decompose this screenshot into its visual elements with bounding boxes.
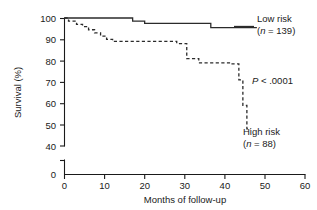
kaplan-meier-figure: 100 90 80 70 60 50 40 0 Survival (%) 0 1… [0,0,317,210]
y-tick-label-70: 70 [45,77,56,88]
x-tick-label-60: 60 [300,180,311,191]
y-tick-label-50: 50 [45,120,56,131]
y-tick-label-0: 0 [51,169,56,180]
y-axis: 100 90 80 70 60 50 40 0 Survival (%) [12,13,65,180]
x-axis-title: Months of follow-up [144,194,226,205]
p-value-annotation: P < .0001 [252,75,293,86]
p-value-text: P < .0001 [252,75,293,86]
survival-curve-high-risk [65,18,251,129]
x-tick-label-0: 0 [62,180,67,191]
y-tick-label-100: 100 [40,13,56,24]
y-tick-label-80: 80 [45,56,56,67]
legend-high-risk: High risk (n = 88) [243,126,280,149]
legend-count-low-risk: (n = 139) [257,25,295,36]
legend-label-high-risk: High risk [243,126,280,137]
y-tick-label-40: 40 [45,141,56,152]
x-tick-label-20: 20 [139,180,150,191]
y-tick-label-90: 90 [45,34,56,45]
survival-curve-low-risk [65,18,257,28]
legend-count-high-risk: (n = 88) [243,138,276,149]
x-tick-label-50: 50 [260,180,271,191]
x-tick-label-40: 40 [220,180,231,191]
x-axis: 0 10 20 30 40 50 60 Months of follow-up [62,175,310,206]
legend-label-low-risk: Low risk [257,13,292,24]
y-tick-label-60: 60 [45,98,56,109]
survival-chart: 100 90 80 70 60 50 40 0 Survival (%) 0 1… [0,0,317,210]
y-axis-title: Survival (%) [12,67,23,118]
x-tick-label-30: 30 [180,180,191,191]
legend-low-risk: Low risk (n = 139) [234,13,295,36]
x-tick-label-10: 10 [99,180,110,191]
